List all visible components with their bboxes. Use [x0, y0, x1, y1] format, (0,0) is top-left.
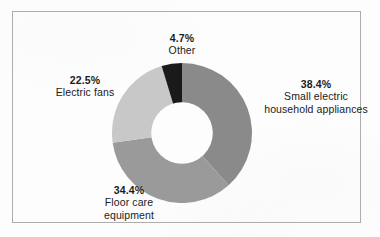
slice-category-floor-care-line2: equipment	[73, 209, 185, 221]
donut-center-hole	[151, 102, 213, 164]
slice-category-electric-fans: Electric fans	[35, 86, 135, 98]
slice-percent-other: 4.7%	[144, 32, 220, 44]
chart-frame-border: 4.7% Other 22.5% Electric fans 38.4% Sma…	[12, 11, 361, 223]
slice-label-floor-care: 34.4% Floor care equipment	[73, 184, 185, 221]
slice-category-appliances-line2: household appliances	[253, 103, 379, 115]
slice-percent-appliances: 38.4%	[253, 78, 379, 90]
slice-category-other: Other	[144, 44, 220, 56]
page-root: 4.7% Other 22.5% Electric fans 38.4% Sma…	[0, 0, 380, 237]
slice-percent-electric-fans: 22.5%	[35, 74, 135, 86]
slice-label-appliances: 38.4% Small electric household appliance…	[253, 78, 379, 115]
slice-percent-floor-care: 34.4%	[73, 184, 185, 196]
slice-category-appliances-line1: Small electric	[253, 90, 379, 102]
slice-label-electric-fans: 22.5% Electric fans	[35, 74, 135, 99]
slice-category-floor-care-line1: Floor care	[73, 196, 185, 208]
slice-label-other: 4.7% Other	[144, 32, 220, 57]
